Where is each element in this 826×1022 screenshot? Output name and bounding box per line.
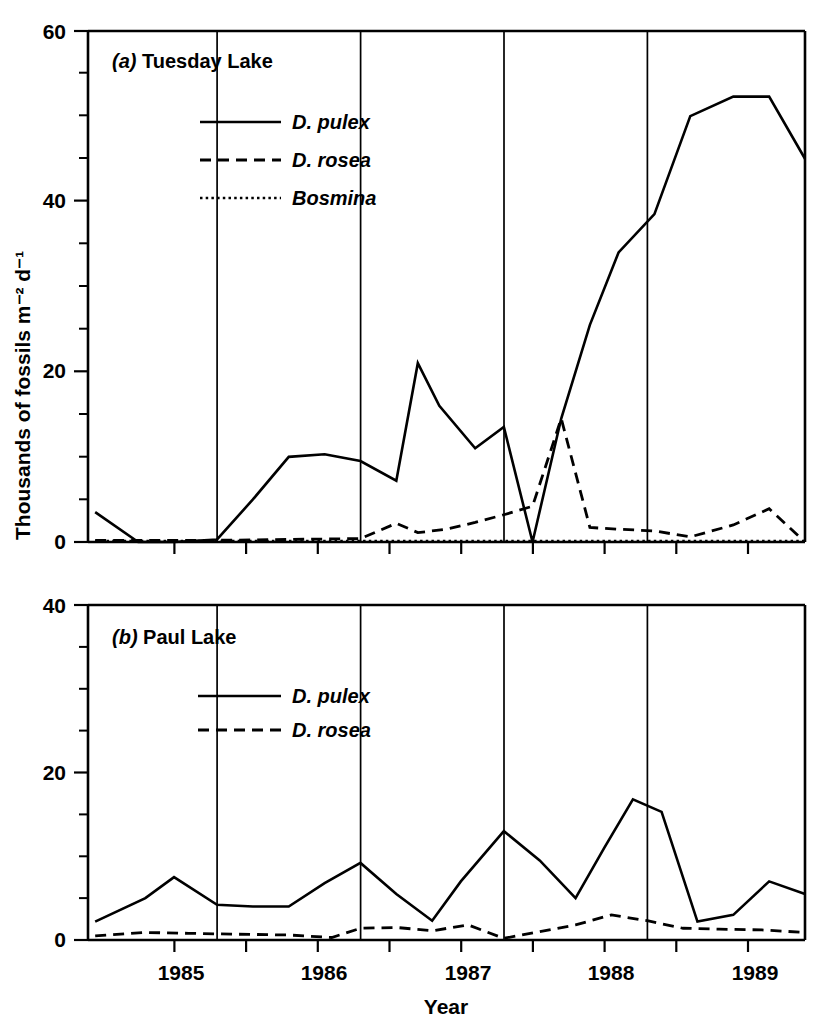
xtick-1986: 1986 (301, 961, 348, 984)
panel-a-title-prefix: (a) (112, 50, 137, 72)
panel-b-ytick-20: 20 (43, 761, 66, 784)
panel-a-x-ticks (174, 542, 748, 554)
panel-a-series-d-pulex (95, 97, 805, 542)
panel-b-y-tick-labels: 0 20 40 (43, 594, 66, 951)
panel-a-legend-label-bosmina: Bosmina (292, 187, 376, 209)
figure-container: Thousands of fossils m⁻² d⁻¹ (0, 0, 826, 1022)
y-axis-title-text: Thousands of fossils m⁻² d⁻¹ (11, 251, 34, 540)
panel-a-y-minor-ticks (79, 73, 88, 500)
panel-b-legend: D. pulex D. rosea (198, 685, 371, 741)
panel-b-series-d-rosea (95, 915, 805, 938)
panel-b-legend-label-d-rosea: D. rosea (292, 719, 371, 741)
panel-a-legend: D. pulex D. rosea Bosmina (200, 111, 376, 209)
panel-a-ytick-40: 40 (43, 189, 66, 212)
panel-b-ytick-0: 0 (54, 928, 66, 951)
panel-b-legend-label-d-pulex: D. pulex (292, 685, 371, 707)
panel-b-title: (b) Paul Lake (112, 626, 236, 648)
panel-a-legend-label-d-rosea: D. rosea (292, 149, 371, 171)
panel-a-y-tick-labels: 0 20 40 60 (43, 20, 66, 553)
panel-b-paul-lake: 0 20 40 (b) Paul Lake (43, 594, 805, 952)
panel-a-ytick-60: 60 (43, 20, 66, 43)
xtick-1989: 1989 (732, 961, 779, 984)
panel-a-frame (88, 31, 805, 542)
figure-svg: Thousands of fossils m⁻² d⁻¹ (0, 0, 826, 1022)
panel-b-ytick-40: 40 (43, 594, 66, 617)
y-axis-title: Thousands of fossils m⁻² d⁻¹ (11, 251, 34, 540)
panel-b-title-prefix: (b) (112, 626, 138, 648)
x-tick-labels: 1985 1986 1987 1988 1989 (158, 961, 779, 984)
xtick-1987: 1987 (445, 961, 492, 984)
panel-b-title-text: Paul Lake (138, 626, 237, 648)
panel-a-ytick-0: 0 (54, 530, 66, 553)
panel-a-legend-label-d-pulex: D. pulex (292, 111, 371, 133)
panel-b-year-dividers (217, 605, 647, 940)
xtick-1988: 1988 (588, 961, 635, 984)
panel-b-y-major-ticks (74, 605, 88, 940)
xtick-1985: 1985 (158, 961, 205, 984)
panel-b-series-d-pulex (95, 799, 805, 921)
panel-b-x-ticks (174, 940, 748, 952)
panel-a-title-text: Tuesday Lake (136, 50, 272, 72)
panel-a-series-d-rosea (95, 419, 805, 542)
panel-a-title: (a) Tuesday Lake (112, 50, 273, 72)
x-axis-title: Year (424, 995, 468, 1018)
panel-a-tuesday-lake: 0 20 40 60 (43, 20, 805, 554)
panel-a-ytick-20: 20 (43, 359, 66, 382)
